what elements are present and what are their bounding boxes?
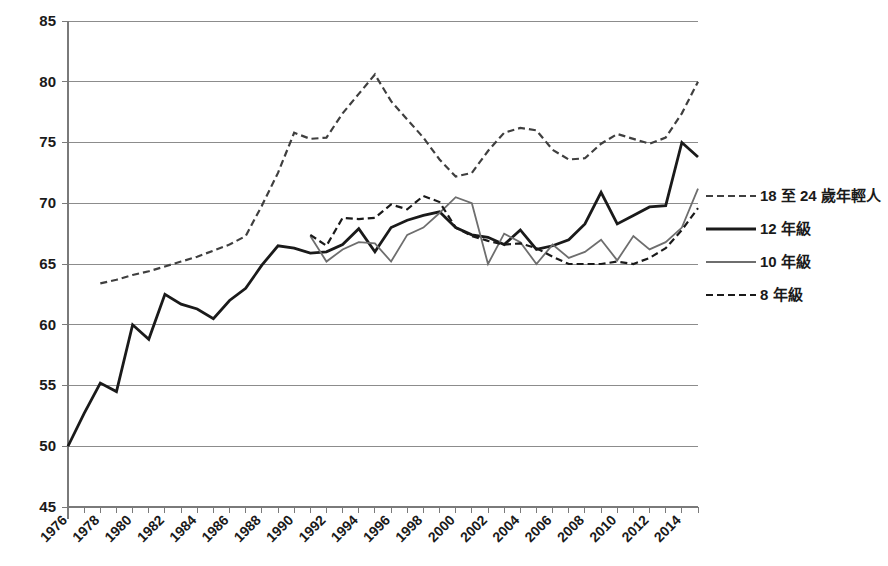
y-tick-label: 60 [39, 316, 56, 333]
x-axis-labels: 1976197819801982198419861988199019921994… [37, 512, 684, 545]
x-tick-label: 1976 [37, 512, 70, 545]
x-tick-label: 2010 [586, 512, 619, 545]
y-tick-label: 70 [39, 194, 56, 211]
x-tick-label: 1994 [328, 512, 361, 545]
series-line-2 [68, 143, 698, 447]
x-tick-label: 1980 [101, 512, 134, 545]
x-tick-label: 2006 [521, 512, 554, 545]
y-tick-label: 85 [39, 12, 56, 29]
x-tick-label: 1996 [360, 512, 393, 545]
y-tick-label: 50 [39, 437, 56, 454]
x-tick-label: 1988 [231, 512, 264, 545]
x-tick-label: 2000 [424, 512, 457, 545]
x-tick-label: 1978 [69, 512, 102, 545]
x-tick-label: 2008 [554, 512, 587, 545]
x-tick-label: 1998 [392, 512, 425, 545]
series-line-4 [310, 196, 698, 264]
data-series [68, 74, 698, 446]
x-tick-label: 1986 [198, 512, 231, 545]
legend-label-1: 18 至 24 歲年輕人 [760, 187, 882, 204]
x-tick-label: 2012 [618, 512, 651, 545]
x-tick-label: 2004 [489, 512, 522, 545]
y-tick-label: 55 [39, 376, 56, 393]
series-line-3 [310, 189, 698, 264]
x-tick-label: 1990 [263, 512, 296, 545]
chart-canvas: 455055606570758085 197619781980198219841… [0, 0, 888, 566]
x-tick-label: 1984 [166, 512, 199, 545]
x-tick-label: 1982 [134, 512, 167, 545]
chart-legend: 18 至 24 歲年輕人12 年級10 年級8 年級 [706, 187, 882, 303]
x-tick-label: 2014 [651, 512, 684, 545]
legend-label-2: 12 年級 [760, 220, 811, 237]
axis-ticks [62, 21, 698, 513]
legend-label-4: 8 年級 [760, 286, 803, 303]
x-tick-label: 2002 [457, 512, 490, 545]
y-tick-label: 80 [39, 73, 56, 90]
axis-lines [68, 21, 698, 519]
line-chart: 455055606570758085 197619781980198219841… [0, 0, 888, 566]
y-tick-label: 45 [39, 498, 56, 515]
x-tick-label: 1992 [295, 512, 328, 545]
legend-label-3: 10 年級 [760, 253, 811, 270]
y-axis-labels: 455055606570758085 [39, 12, 56, 515]
y-tick-label: 75 [39, 133, 56, 150]
series-line-1 [100, 74, 698, 283]
y-tick-label: 65 [39, 255, 56, 272]
